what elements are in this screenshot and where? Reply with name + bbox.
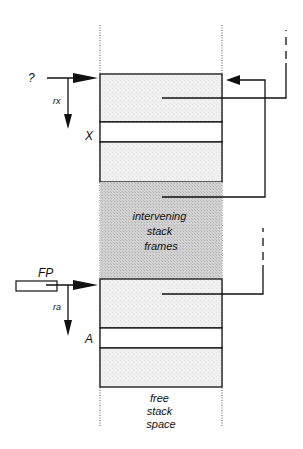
intervening-link-arrowhead [226,75,240,85]
frame-bottom-block [100,279,222,328]
slot-a [100,328,222,348]
fp-arrowhead [73,280,98,290]
fp-register-box [16,281,57,291]
slot-x [100,122,222,142]
stack-diagram: intervening stack frames free stack spac… [0,0,303,449]
a-slot-label: A [84,332,93,346]
ra-label: ra [53,302,61,312]
unknown-pointer-label: ? [28,71,35,85]
frame-bottom-lower-block [100,348,222,387]
top-pointer-arrowhead [73,73,98,83]
fp-label: FP [38,266,53,280]
frame-top-lower-block [100,142,222,182]
rx-label: rx [53,96,61,106]
rx-arrowhead [64,114,72,129]
ra-arrowhead [64,320,72,336]
free-space-label: free stack space [146,392,175,430]
x-slot-label: X [84,129,94,143]
